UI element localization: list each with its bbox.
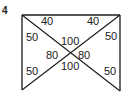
diagram: 4 40 40 50 50 100 80 80 100 50 50 [0, 0, 123, 95]
label-left-lower-50: 50 [26, 66, 38, 77]
label-top-right-40: 40 [87, 16, 99, 27]
rectangle-with-diagonals [0, 0, 123, 95]
label-center-right-80: 80 [78, 50, 90, 61]
label-center-lower-100: 100 [61, 61, 79, 72]
label-top-left-40: 40 [41, 16, 53, 27]
label-center-upper-100: 100 [61, 36, 79, 47]
label-right-lower-50: 50 [104, 66, 116, 77]
label-right-upper-50: 50 [105, 31, 117, 42]
label-center-left-80: 80 [46, 50, 58, 61]
label-left-upper-50: 50 [26, 32, 38, 43]
